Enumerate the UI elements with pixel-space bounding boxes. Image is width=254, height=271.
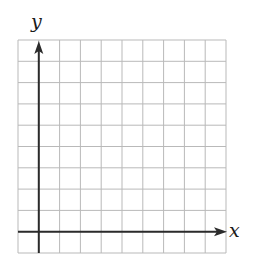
grid-lines xyxy=(18,40,226,253)
x-axis-label: x xyxy=(229,221,240,240)
coordinate-grid xyxy=(0,0,254,271)
y-axis-label: y xyxy=(31,12,42,31)
